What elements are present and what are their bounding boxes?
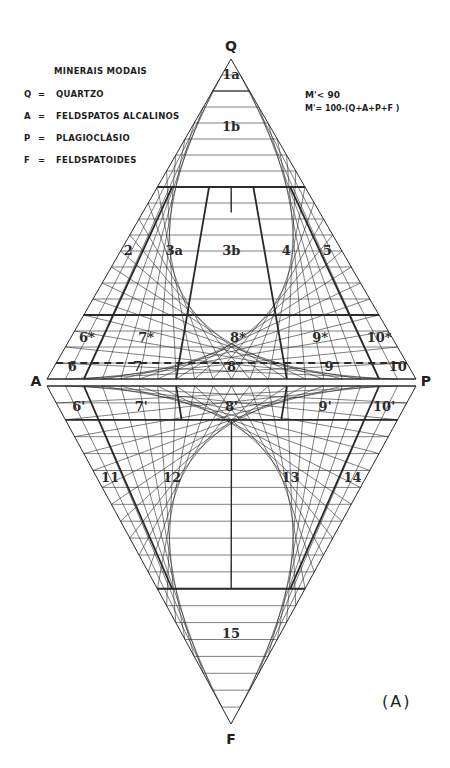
field-label: 1a [222,67,240,82]
legend-label: FELDSPATOIDES [56,155,137,165]
field-label: 2 [124,243,133,258]
field-label: 3b [222,243,240,258]
field-label: 10 [389,359,407,374]
field-label: 14 [344,470,362,485]
legend-symbol: A [24,109,38,123]
legend-symbol: P [24,131,38,145]
legend-label: PLAGIOCLÁSIO [56,133,130,143]
field-label: 7 [133,359,142,374]
field-label: 9' [319,399,332,414]
legend-symbol: F [24,153,38,167]
legend-label: FELDSPATOS ALCALINOS [56,111,180,121]
mafic-note: M'< 90 M'= 100-(Q+A+P+F ) [305,89,399,115]
field-label: 6' [72,399,85,414]
field-label: 8* [230,330,246,345]
vertex-label-p: P [421,373,431,389]
field-label: 1b [222,119,240,134]
legend-item: F=FELDSPATOIDES [24,153,180,175]
field-label: 6* [79,330,95,345]
legend-equals: = [38,131,56,145]
field-label: 8' [225,399,238,414]
field-label: 7' [135,399,148,414]
field-label: 6 [68,359,77,374]
legend-symbol: Q [24,87,38,101]
legend-title: MINERAIS MODAIS [54,66,180,76]
grid-line [65,386,221,707]
field-label: 13 [282,470,300,485]
field-label: 15 [222,626,240,641]
legend-equals: = [38,87,56,101]
grid-line [240,386,397,707]
legend-label: QUARTZO [56,89,104,99]
figure-label: (A) [382,692,411,711]
field-label: 9* [312,330,328,345]
legend-item: A=FELDSPATOS ALCALINOS [24,109,180,131]
field-label: 12 [163,470,181,485]
field-label: 5 [323,243,332,258]
legend: MINERAIS MODAIS Q=QUARTZO A=FELDSPATOS A… [24,66,180,175]
field-label: 10* [367,330,392,345]
grid-line [259,107,361,379]
vertex-label-q: Q [225,38,237,54]
field-label: 4 [282,243,291,258]
grid-line [259,386,361,673]
vertex-label-a: A [31,373,42,389]
field-label: 11 [101,470,119,485]
legend-equals: = [38,109,56,123]
vertex-label-f: F [226,731,236,747]
legend-equals: = [38,153,56,167]
mafic-limit: M'< 90 [305,89,399,102]
field-label: 9 [325,359,334,374]
field-label: 7* [138,330,154,345]
legend-item: Q=QUARTZO [24,87,180,109]
mafic-formula: M'= 100-(Q+A+P+F ) [305,102,399,115]
field-label: 8 [227,359,236,374]
field-label: 3a [165,243,183,258]
field-label: 10' [373,399,395,414]
legend-item: P=PLAGIOCLÁSIO [24,131,180,153]
grid-line [102,386,203,673]
